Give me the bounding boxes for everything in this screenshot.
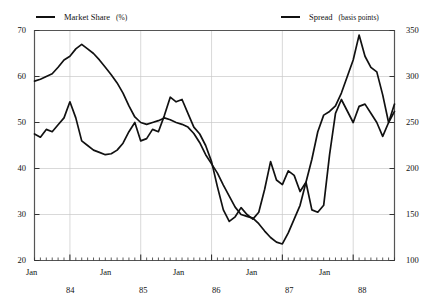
chart-plot-area	[0, 0, 438, 306]
data-series-lines	[35, 35, 395, 244]
series-line-spread	[35, 35, 395, 244]
chart-root: Market Share (%) Spread (basis points) 7…	[0, 0, 438, 306]
series-line-market-share	[35, 97, 395, 221]
